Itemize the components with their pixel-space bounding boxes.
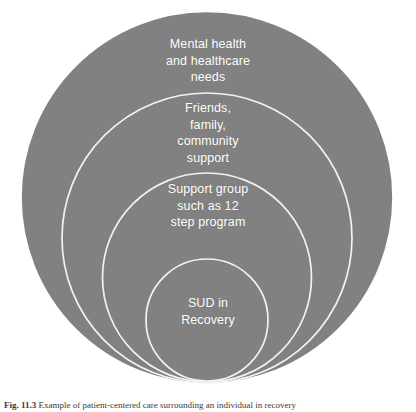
figure-root: Mental health and healthcare needs Frien… xyxy=(0,0,416,412)
figure-caption: Fig. 11.3 Example of patient-centered ca… xyxy=(4,400,412,412)
figure-caption-number: Fig. 11.3 xyxy=(4,400,36,410)
figure-caption-text: Example of patient-centered care surroun… xyxy=(39,400,296,410)
circle-outer xyxy=(21,12,393,384)
nested-circles-graphic xyxy=(0,0,416,412)
